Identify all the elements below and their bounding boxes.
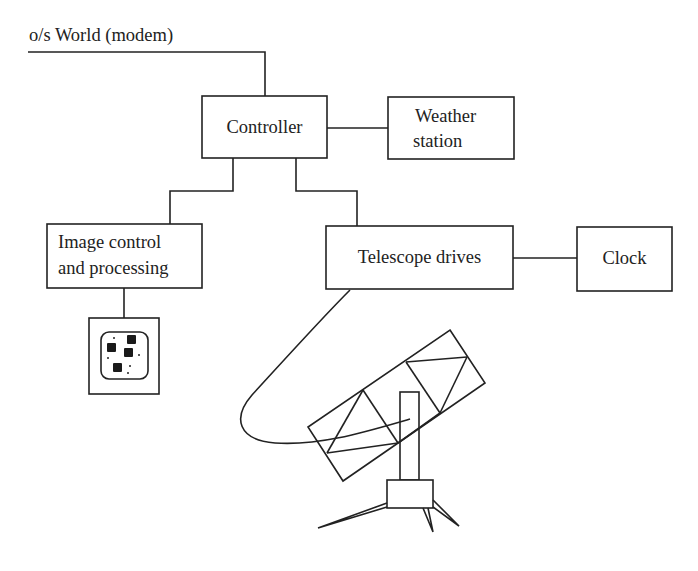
image-control-label-line2: and processing xyxy=(58,258,168,278)
monitor-icon xyxy=(89,318,159,394)
controller-drives-connector xyxy=(296,158,357,226)
tripod-leg-right xyxy=(433,500,459,526)
controller-image-connector xyxy=(170,158,233,224)
telescope-base xyxy=(387,480,433,508)
telescope-icon xyxy=(241,290,485,532)
tripod-leg-left xyxy=(318,503,387,528)
drive-cable xyxy=(241,290,410,443)
weather-station-label-line1: Weather xyxy=(415,106,476,126)
clock-node: Clock xyxy=(577,227,672,291)
weather-station-node: Weather station xyxy=(388,97,514,159)
telescope-drives-label: Telescope drives xyxy=(358,247,482,267)
telescope-tube xyxy=(308,330,485,481)
controller-label: Controller xyxy=(226,117,302,137)
telescope-system-diagram: o/s World (modem) Controller Weather sta… xyxy=(0,0,698,571)
image-control-label-line1: Image control xyxy=(58,232,161,252)
weather-station-label-line2: station xyxy=(413,131,462,151)
external-link-line xyxy=(28,52,265,96)
telescope-drives-node: Telescope drives xyxy=(326,226,513,289)
clock-label: Clock xyxy=(602,248,647,268)
image-control-node: Image control and processing xyxy=(47,224,202,288)
tripod-leg-middle xyxy=(423,508,433,532)
external-link-label: o/s World (modem) xyxy=(29,25,173,46)
controller-node: Controller xyxy=(202,96,327,158)
